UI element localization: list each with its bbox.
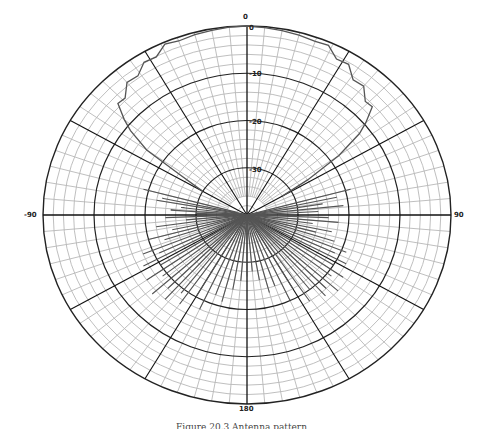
angle-label-minus-90: -90 [24,212,37,219]
radial-label-minus-20: -20 [249,119,262,126]
radial-label-0: 0 [249,25,254,32]
minor-spoke [259,60,364,199]
angle-label-90: 90 [454,212,464,219]
angle-label-180: 180 [239,406,254,413]
angle-label-0: 0 [243,14,248,21]
polar-chart [0,0,483,429]
radial-label-minus-30: -30 [249,167,262,174]
minor-spoke [80,107,230,205]
minor-spoke [259,230,364,369]
figure-caption: Figure 20.3 Antenna pattern [0,422,483,429]
radial-label-minus-10: -10 [249,71,262,78]
minor-spoke [130,60,235,199]
